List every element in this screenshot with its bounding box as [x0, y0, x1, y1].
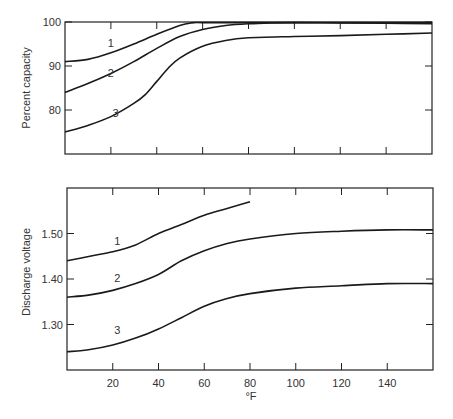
plot-frame [65, 22, 432, 154]
figure: 8090100123 204060801001201401.301.401.50… [0, 0, 453, 419]
x-tick-label: 20 [107, 377, 119, 389]
curve-label-3: 3 [114, 324, 120, 336]
curve-label-2: 2 [114, 272, 120, 284]
bottom-y-axis-label: Discharge voltage [20, 228, 32, 316]
curve-3 [67, 283, 433, 351]
curve-1 [67, 202, 250, 261]
x-tick-label: 120 [332, 377, 350, 389]
y-tick-label: 90 [49, 60, 61, 72]
curve-label-1: 1 [108, 37, 114, 49]
y-tick-label: 100 [43, 16, 61, 28]
x-tick-label: 140 [378, 377, 396, 389]
curve-3 [65, 33, 432, 132]
curve-label-1: 1 [114, 235, 120, 247]
capacity-chart: 8090100123 [43, 16, 432, 154]
voltage-chart: 204060801001201401.301.401.50123 [42, 188, 433, 389]
y-tick-label: 1.50 [42, 228, 63, 240]
x-axis-label: °F [245, 390, 256, 402]
x-tick-label: 60 [198, 377, 210, 389]
curve-label-2: 2 [108, 67, 114, 79]
x-tick-label: 40 [152, 377, 164, 389]
y-tick-label: 1.30 [42, 319, 63, 331]
curve-label-3: 3 [112, 107, 118, 119]
top-y-axis-label: Percent capacity [20, 47, 32, 129]
curve-2 [67, 230, 433, 297]
x-tick-label: 100 [287, 377, 305, 389]
curve-2 [65, 23, 432, 93]
x-tick-label: 80 [244, 377, 256, 389]
y-tick-label: 80 [49, 104, 61, 116]
y-tick-label: 1.40 [42, 273, 63, 285]
